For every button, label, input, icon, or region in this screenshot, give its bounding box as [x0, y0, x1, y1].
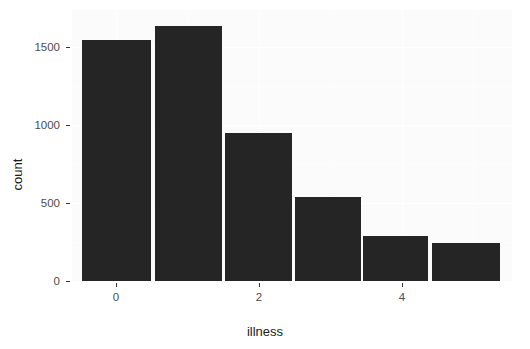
x-axis-title: illness: [0, 325, 530, 338]
plot-panel: [72, 10, 512, 281]
bar-illness-3: [295, 197, 361, 281]
x-tick-mark: [116, 283, 117, 287]
y-tick-mark: [66, 281, 70, 282]
x-tick-label: 0: [113, 292, 119, 304]
bar-illness-1: [155, 26, 222, 281]
y-tick-label: 0: [54, 276, 60, 288]
y-tick-label: 1500: [34, 42, 60, 54]
y-tick-mark: [66, 125, 70, 126]
y-tick-label: 1000: [34, 120, 60, 132]
x-tick-mark: [402, 283, 403, 287]
y-tick-mark: [66, 203, 70, 204]
bar-illness-0: [82, 40, 151, 281]
panel-inner: [72, 10, 512, 281]
x-tick-label: 2: [256, 292, 262, 304]
x-tick-mark: [259, 283, 260, 287]
y-tick-label: 500: [41, 198, 60, 210]
y-axis-title: count: [10, 0, 26, 349]
x-tick-label: 4: [399, 292, 405, 304]
bar-illness-4: [363, 236, 428, 281]
gridline-minor-vertical: [473, 10, 474, 281]
bar-illness-2: [225, 133, 292, 281]
y-axis-title-label: count: [11, 159, 26, 191]
y-tick-mark: [66, 47, 70, 48]
bar-illness-5: [432, 243, 500, 281]
chart-container: count 1500 1000 500 0: [0, 0, 530, 349]
